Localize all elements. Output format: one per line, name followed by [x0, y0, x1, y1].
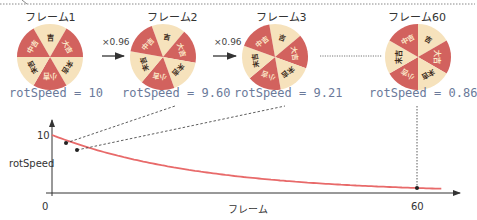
point-frame2 [75, 148, 79, 152]
y-tick-10: 10 [37, 130, 50, 141]
x-tick-0: 0 [42, 201, 48, 212]
wheels: 吉大吉末吉小吉末吉中吉吉大吉末吉小吉末吉中吉吉大吉末吉小吉末吉中吉吉大吉末吉小吉… [17, 24, 451, 90]
leader-line-frame3 [77, 106, 285, 150]
y-axis-label: rotSpeed [9, 158, 54, 169]
speed-value-frame60: rotSpeed = 0.86 [369, 86, 477, 100]
fortune-wheel: 吉大吉末吉小吉末吉中吉 [17, 24, 83, 90]
decay-curve [52, 135, 441, 189]
frame-label-3: フレーム3 [241, 8, 321, 24]
multiplier-label: ×0.96 [214, 37, 242, 47]
x-axis-label: フレーム [228, 201, 268, 216]
fortune-wheel: 吉大吉末吉小吉末吉中吉 [242, 24, 308, 90]
svg-text:大吉: 大吉 [433, 50, 442, 64]
frame-label-60: フレーム60 [377, 8, 457, 24]
svg-text:吉: 吉 [47, 33, 54, 42]
point-frame60 [415, 186, 419, 190]
speed-value-frame2: rotSpeed = 9.60 [122, 86, 230, 100]
svg-text:末吉: 末吉 [394, 50, 403, 64]
fortune-wheel: 吉大吉末吉小吉末吉中吉 [130, 24, 196, 90]
svg-text:小吉: 小吉 [43, 72, 58, 81]
x-tick-60: 60 [411, 201, 424, 212]
point-frame1 [64, 141, 68, 145]
frame-label-1: フレーム1 [10, 8, 90, 24]
top-diagonal-mark [22, 0, 27, 4]
speed-value-frame1: rotSpeed = 10 [9, 86, 103, 100]
frame-label-2: フレーム2 [132, 8, 212, 24]
multiplier-label: ×0.96 [102, 37, 130, 47]
speed-value-frame3: rotSpeed = 9.21 [234, 86, 342, 100]
leader-line-frame2 [66, 106, 175, 143]
fortune-wheel: 吉大吉末吉小吉末吉中吉 [385, 24, 451, 90]
